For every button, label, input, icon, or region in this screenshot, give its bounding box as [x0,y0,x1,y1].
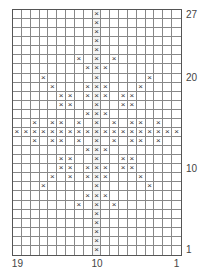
chart-cell [137,64,146,73]
chart-cell [110,164,119,173]
chart-cell [154,10,163,19]
chart-cell [146,164,155,173]
chart-cell [22,10,31,19]
chart-cell [57,246,66,255]
chart-cell [48,10,57,19]
chart-cell [172,155,181,164]
chart-cell: × [40,182,49,191]
chart-cell [31,46,40,55]
chart-cell [31,10,40,19]
stitch-x-mark: × [128,164,136,172]
chart-cell [154,219,163,228]
chart-cell [22,155,31,164]
chart-cell [31,201,40,210]
chart-cell [40,110,49,119]
stitch-x-mark: × [93,10,101,18]
chart-cell [13,64,22,73]
chart-cell [48,37,57,46]
chart-cell: × [128,101,137,110]
chart-cell [137,146,146,155]
stitch-x-mark: × [101,92,109,100]
chart-cell [22,182,31,191]
chart-cell [172,92,181,101]
chart-cell [13,155,22,164]
chart-cell: × [163,128,172,137]
chart-cell [172,228,181,237]
chart-cell [66,237,75,246]
chart-cell [146,46,155,55]
stitch-x-mark: × [75,137,83,145]
chart-cell [110,19,119,28]
stitch-x-mark: × [84,173,92,181]
chart-cell [110,237,119,246]
stitch-x-mark: × [57,92,65,100]
stitch-x-mark: × [48,137,56,145]
stitch-x-mark: × [93,219,101,227]
chart-cell [154,83,163,92]
chart-cell [48,28,57,37]
stitch-x-mark: × [75,119,83,127]
stitch-x-mark: × [101,191,109,199]
chart-cell: × [137,83,146,92]
chart-cell [75,228,84,237]
chart-cell: × [101,128,110,137]
chart-cell [75,219,84,228]
chart-cell: × [84,173,93,182]
chart-cell [31,164,40,173]
chart-cell: × [137,137,146,146]
chart-cell [128,37,137,46]
chart-cell [40,219,49,228]
stitch-x-mark: × [93,128,101,136]
chart-cell [110,155,119,164]
stitch-x-mark: × [110,137,118,145]
chart-cell [22,173,31,182]
chart-cell: × [84,64,93,73]
chart-cell [163,46,172,55]
chart-cell [48,201,57,210]
chart-cell [40,55,49,64]
chart-cell [66,10,75,19]
chart-cell [13,201,22,210]
stitch-x-mark: × [128,137,136,145]
row-number-label: 10 [186,163,197,174]
chart-cell [128,201,137,210]
chart-cell [154,101,163,110]
chart-cell: × [84,191,93,200]
chart-cell [137,155,146,164]
chart-cell [57,74,66,83]
chart-cell [22,37,31,46]
chart-cell [110,74,119,83]
chart-cell [128,228,137,237]
chart-cell [48,191,57,200]
chart-cell [57,64,66,73]
chart-cell [75,173,84,182]
chart-cell [75,155,84,164]
chart-cell [172,137,181,146]
chart-cell [48,182,57,191]
chart-cell [119,201,128,210]
stitch-x-mark: × [93,83,101,91]
chart-cell: × [57,101,66,110]
chart-cell [13,191,22,200]
stitch-x-mark: × [119,164,127,172]
chart-cell [84,246,93,255]
chart-cell [128,191,137,200]
chart-cell [119,37,128,46]
stitch-x-mark: × [57,155,65,163]
chart-cell [128,46,137,55]
chart-cell [57,28,66,37]
chart-cell [48,101,57,110]
chart-cell [13,246,22,255]
stitch-x-mark: × [101,164,109,172]
chart-cell [31,210,40,219]
stitch-x-mark: × [57,137,65,145]
chart-cell: × [13,128,22,137]
stitch-x-mark: × [93,237,101,245]
chart-cell: × [48,83,57,92]
chart-cell [31,37,40,46]
chart-cell [154,74,163,83]
stitch-x-mark: × [66,128,74,136]
stitch-x-mark: × [84,83,92,91]
chart-cell: × [48,173,57,182]
chart-cell [31,83,40,92]
